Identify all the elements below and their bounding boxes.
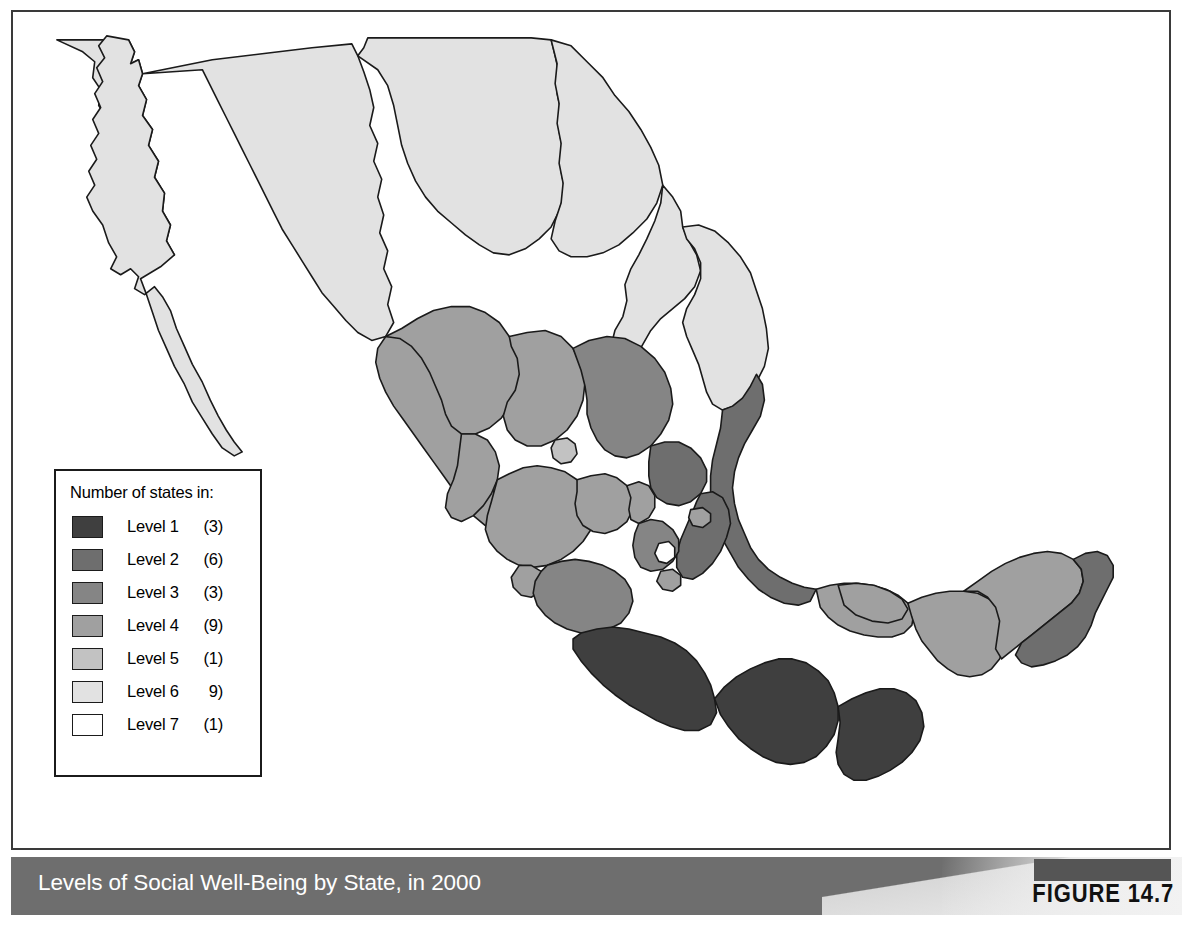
state-aguascalientes — [551, 438, 577, 464]
legend-label-level-6: Level 6 — [127, 682, 189, 701]
state-san-luis-potosi — [573, 336, 673, 457]
legend-item-level-7: Level 7 (1) — [72, 708, 260, 741]
legend-label-level-5: Level 5 — [127, 649, 189, 668]
state-morelos — [657, 569, 681, 591]
legend-label-level-3: Level 3 — [127, 583, 189, 602]
figure-number-label: FIGURE 14.7 — [1032, 879, 1174, 908]
legend-label-level-1: Level 1 — [127, 517, 189, 536]
state-guanajuato — [575, 474, 633, 534]
legend-count-level-7: (1) — [189, 715, 223, 734]
legend-swatch-level-7 — [72, 714, 103, 736]
figure-caption-bar: Levels of Social Well-Being by State, in… — [11, 857, 1182, 915]
legend-label-level-4: Level 4 — [127, 616, 189, 635]
legend-count-level-6: 9) — [189, 682, 223, 701]
map-frame: .st{stroke:#1a1a1a;stroke-width:1.6;stro… — [11, 10, 1171, 850]
figure-caption-text: Levels of Social Well-Being by State, in… — [38, 870, 481, 896]
state-michoacan — [533, 559, 633, 633]
legend-swatch-level-3 — [72, 582, 103, 604]
state-puebla — [677, 492, 731, 580]
legend-swatch-level-4 — [72, 615, 103, 637]
state-hidalgo — [649, 442, 707, 506]
legend-swatch-level-5 — [72, 648, 103, 670]
state-oaxaca — [715, 659, 839, 764]
legend-item-level-5: Level 5 (1) — [72, 642, 260, 675]
legend-item-level-1: Level 1 (3) — [72, 510, 260, 543]
state-distrito-federal — [655, 541, 675, 563]
state-chiapas — [836, 689, 924, 781]
legend-swatch-level-1 — [72, 516, 103, 538]
figure-tag-block — [1034, 859, 1171, 881]
state-coahuila — [551, 40, 663, 257]
legend-swatch-level-2 — [72, 549, 103, 571]
legend-label-level-7: Level 7 — [127, 715, 189, 734]
legend-count-level-3: (3) — [189, 583, 223, 602]
state-chihuahua — [358, 38, 565, 255]
state-sonora — [143, 44, 394, 341]
legend-count-level-2: (6) — [189, 550, 223, 569]
legend-count-level-4: (9) — [189, 616, 223, 635]
legend-item-level-3: Level 3 (3) — [72, 576, 260, 609]
state-tlaxcala — [689, 508, 711, 528]
legend-title: Number of states in: — [70, 483, 260, 502]
legend-item-level-4: Level 4 (9) — [72, 609, 260, 642]
legend-item-level-6: Level 6 9) — [72, 675, 260, 708]
legend-label-level-2: Level 2 — [127, 550, 189, 569]
legend-count-level-5: (1) — [189, 649, 223, 668]
state-guerrero — [573, 627, 717, 731]
legend-count-level-1: (3) — [189, 517, 223, 536]
map-legend: Number of states in: Level 1 (3) Level 2… — [54, 469, 262, 777]
state-veracruz — [711, 374, 817, 605]
legend-swatch-level-6 — [72, 681, 103, 703]
figure-root: .st{stroke:#1a1a1a;stroke-width:1.6;stro… — [0, 0, 1182, 925]
legend-item-level-2: Level 2 (6) — [72, 543, 260, 576]
